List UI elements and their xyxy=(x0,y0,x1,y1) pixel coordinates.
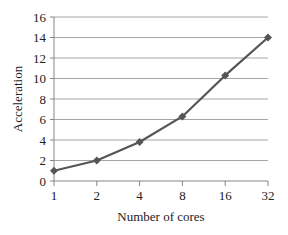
diamond-marker xyxy=(93,157,101,165)
y-axis-ticks: 0246810121416 xyxy=(33,10,54,189)
x-tick-label: 16 xyxy=(219,188,233,203)
y-axis-title: Acceleration xyxy=(10,65,25,132)
x-tick-label: 1 xyxy=(51,188,58,203)
y-tick-label: 16 xyxy=(33,10,47,25)
x-tick-label: 2 xyxy=(94,188,101,203)
y-tick-label: 12 xyxy=(33,51,46,66)
y-tick-label: 14 xyxy=(33,30,47,45)
y-tick-label: 10 xyxy=(33,71,46,86)
x-axis-title: Number of cores xyxy=(117,209,204,224)
series-line xyxy=(54,38,268,171)
gridlines xyxy=(54,17,268,161)
data-series xyxy=(50,34,272,175)
y-tick-label: 0 xyxy=(40,174,47,189)
x-axis-ticks: 12481632 xyxy=(51,181,275,203)
y-tick-label: 6 xyxy=(40,112,47,127)
diamond-marker xyxy=(50,167,58,175)
x-tick-label: 32 xyxy=(262,188,275,203)
x-tick-label: 8 xyxy=(179,188,186,203)
y-tick-label: 8 xyxy=(40,92,47,107)
y-tick-label: 4 xyxy=(40,133,47,148)
y-tick-label: 2 xyxy=(40,153,47,168)
line-chart: 0246810121416 12481632 Number of cores A… xyxy=(0,0,288,235)
x-tick-label: 4 xyxy=(136,188,143,203)
